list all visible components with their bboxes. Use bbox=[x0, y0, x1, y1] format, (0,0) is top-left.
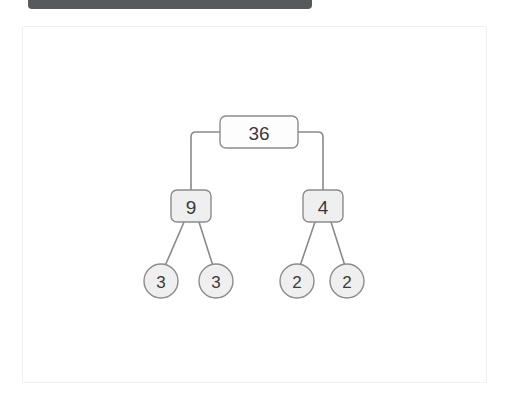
edge-left-to-leaf1 bbox=[165, 222, 184, 266]
node-left-branch-label: 9 bbox=[186, 197, 197, 218]
edge-right-to-leaf4 bbox=[331, 222, 345, 266]
node-root-label: 36 bbox=[248, 123, 269, 144]
node-right-branch-label: 4 bbox=[318, 197, 329, 218]
node-leaf-1-label: 3 bbox=[156, 273, 165, 292]
edge-right-to-leaf3 bbox=[300, 222, 315, 266]
edge-left-to-leaf2 bbox=[199, 222, 213, 266]
edge-root-to-right bbox=[298, 132, 323, 190]
node-leaf-3-label: 2 bbox=[292, 273, 301, 292]
edge-root-to-left bbox=[191, 132, 220, 190]
factor-tree-diagram: 36 9 4 3 3 2 2 bbox=[0, 0, 515, 411]
node-leaf-2-label: 3 bbox=[211, 273, 220, 292]
node-leaf-4-label: 2 bbox=[342, 273, 351, 292]
